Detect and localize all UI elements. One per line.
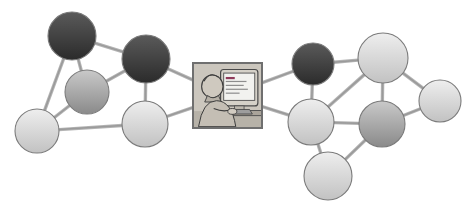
node-couple[interactable] (122, 101, 168, 147)
network-canvas (0, 0, 473, 212)
edge-n2-n3 (54, 106, 69, 118)
person-at-computer[interactable] (193, 63, 262, 128)
edge-n1-n4 (95, 43, 123, 52)
edge-n2-n4 (106, 71, 125, 82)
edge-n8-n10 (403, 109, 420, 116)
edge-n9-n11 (318, 144, 321, 153)
node-girl-portrait-left[interactable] (15, 109, 59, 155)
node-layer (15, 12, 461, 200)
edge-n1-n2 (78, 59, 81, 71)
node-family-group-bottom[interactable] (304, 152, 352, 200)
node-blonde-woman[interactable] (358, 33, 408, 85)
edge-n7-n8 (403, 73, 423, 88)
edge-n1-n3 (45, 59, 64, 111)
node-girl-waving[interactable] (292, 43, 334, 86)
node-man-in-suit[interactable] (359, 101, 405, 148)
center-illustration (194, 64, 262, 128)
social-network-figure (0, 0, 473, 212)
node-family-photo-left[interactable] (65, 70, 109, 114)
edge-n3-n5 (59, 125, 122, 129)
node-cheering-person[interactable] (288, 99, 334, 146)
node-group-photo-top-left[interactable] (48, 12, 96, 60)
edge-n7-n9 (328, 75, 364, 107)
edge-n6-n7 (334, 60, 358, 62)
node-boy-right[interactable] (419, 80, 461, 123)
node-man-with-glasses[interactable] (122, 35, 170, 83)
edge-n9-n10 (334, 123, 359, 124)
edge-n10-n11 (345, 140, 365, 159)
